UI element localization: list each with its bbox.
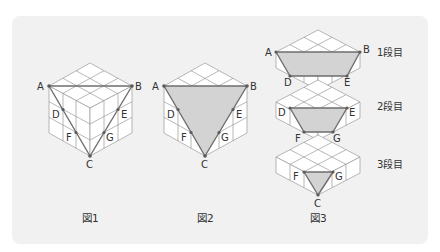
label-g: G — [221, 132, 229, 143]
point-f — [189, 131, 192, 134]
caption-figure-2: 図2 — [197, 212, 214, 224]
label-a: A — [152, 81, 159, 92]
label-a: A — [37, 81, 44, 92]
layer-3-label: 3段目 — [377, 158, 403, 170]
label-b: B — [250, 81, 257, 92]
point-c — [203, 154, 207, 158]
label-c: C — [314, 198, 321, 209]
layer-2-label: 2段目 — [377, 100, 403, 112]
layer-3: F G C 3段目 — [276, 135, 403, 209]
label-f: F — [66, 132, 72, 143]
figure-3-layers: A B D E 1段目 D E F G 2段目 — [265, 30, 403, 224]
point-f — [74, 131, 77, 134]
label-d: D — [52, 109, 60, 120]
label-a: A — [265, 47, 272, 58]
label-d: D — [167, 109, 175, 120]
label-d: D — [278, 107, 286, 118]
point-e — [116, 108, 119, 111]
point-c — [88, 154, 92, 158]
label-e: E — [236, 109, 242, 120]
caption-figure-1: 図1 — [82, 212, 99, 224]
caption-figure-3: 図3 — [310, 212, 327, 224]
point-d — [176, 108, 179, 111]
label-g: G — [333, 133, 341, 144]
point-d — [61, 108, 64, 111]
layer-1: A B D E 1段目 — [265, 30, 403, 90]
figure-2-cube: A B C D F E G 図2 — [152, 63, 257, 224]
label-d: D — [284, 77, 292, 88]
cube-diagrams: A B C D F E G 図1 A B C D F E G 図2 — [0, 0, 440, 252]
label-e: E — [344, 77, 350, 88]
label-c: C — [201, 159, 208, 170]
label-g: G — [335, 171, 343, 182]
label-e: E — [349, 107, 355, 118]
figure-1-cube: A B C D F E G 図1 — [37, 63, 142, 224]
label-f: F — [181, 132, 187, 143]
layer-1-label: 1段目 — [377, 46, 403, 58]
point-b — [245, 84, 249, 88]
layer-2: D E F G 2段目 — [276, 80, 403, 144]
label-g: G — [106, 132, 114, 143]
point-e — [231, 108, 234, 111]
point-a — [162, 84, 166, 88]
label-b: B — [135, 81, 142, 92]
label-b: B — [363, 44, 370, 55]
label-f: F — [293, 171, 299, 182]
label-f: F — [295, 133, 301, 144]
label-c: C — [86, 159, 93, 170]
label-e: E — [121, 109, 127, 120]
point-b — [130, 84, 134, 88]
point-a — [47, 84, 51, 88]
